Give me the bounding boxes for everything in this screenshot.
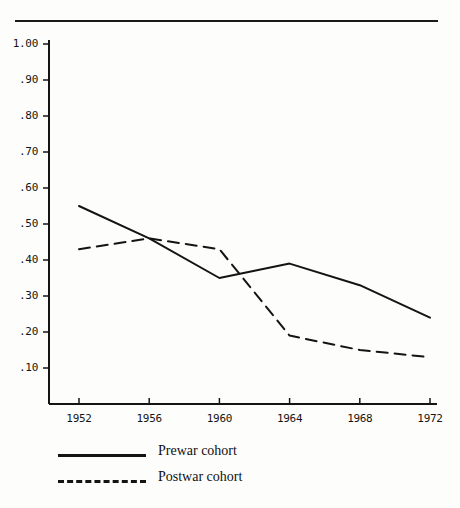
y-axis-tick-label: .60 [0,181,38,194]
series-line-prewar-cohort [79,206,430,318]
chart-legend: Prewar cohort Postwar cohort [58,443,338,495]
x-axis-tick-label: 1968 [335,412,385,425]
legend-item-postwar-cohort: Postwar cohort [58,469,338,495]
axis-lines [49,40,437,404]
y-axis-tick-label: .50 [0,217,38,230]
chart-figure: 1.00.90.80.70.60.50.40.30.20.10 19521956… [0,0,460,508]
x-axis-tick-label: 1952 [54,412,104,425]
y-axis-tick-label: .30 [0,289,38,302]
y-axis-tick-label: .80 [0,109,38,122]
y-axis-tick-label: .40 [0,253,38,266]
data-series-layer [79,206,430,357]
legend-item-prewar-cohort: Prewar cohort [58,443,338,469]
x-axis-tick-label: 1956 [124,412,174,425]
y-axis-tick-label: .10 [0,361,38,374]
series-line-postwar-cohort [79,238,430,357]
y-axis-tick-label: .90 [0,73,38,86]
line-chart-plot [0,0,460,508]
legend-label-prewar: Prewar cohort [158,443,237,459]
y-axis-tick-label: 1.00 [0,37,38,50]
legend-line-sample-dashed [58,480,146,483]
x-axis-tick-label: 1972 [405,412,455,425]
legend-label-postwar: Postwar cohort [158,469,242,485]
y-axis-tick-label: .20 [0,325,38,338]
y-axis-tick-label: .70 [0,145,38,158]
x-axis-tick-label: 1964 [265,412,315,425]
x-axis-tick-label: 1960 [194,412,244,425]
legend-line-sample-solid [58,454,146,457]
